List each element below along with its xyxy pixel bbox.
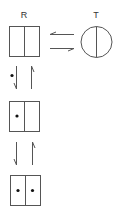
equilibrium-arrows-r-t	[50, 32, 74, 51]
equilibrium-arrows-r0-r1	[14, 66, 34, 89]
state-r1-box	[10, 102, 40, 132]
state-t0-circle	[81, 27, 112, 58]
bound-ligand-dot-icon	[16, 189, 19, 192]
ligand-dot-icon	[10, 74, 13, 77]
state-r2-box	[11, 176, 41, 206]
bound-ligand-dot-icon	[15, 114, 18, 117]
state-r0-box	[10, 27, 40, 57]
bound-ligand-dot-icon	[31, 189, 34, 192]
diagram-canvas: R T	[0, 0, 116, 215]
equilibrium-arrows-r1-r2	[14, 142, 35, 165]
diagram-graphics	[0, 0, 116, 215]
